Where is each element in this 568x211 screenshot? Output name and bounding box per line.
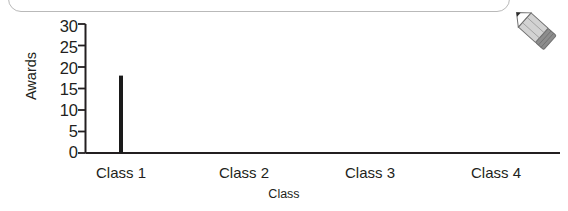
x-tick-label-class-2: Class 2 bbox=[184, 165, 304, 180]
x-tick-label-class-3: Class 3 bbox=[310, 165, 430, 180]
chart-page: Awards 30 25 20 15 10 5 0 bbox=[0, 0, 568, 211]
x-tick-label-class-1: Class 1 bbox=[61, 165, 181, 180]
bar-class-1 bbox=[119, 76, 123, 153]
bar-chart: Awards 30 25 20 15 10 5 0 bbox=[0, 0, 568, 211]
x-tick-label-class-4: Class 4 bbox=[436, 165, 556, 180]
x-axis-title: Class bbox=[0, 187, 568, 201]
